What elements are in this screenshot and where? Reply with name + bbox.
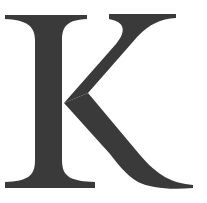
letter-canvas: K	[0, 0, 207, 203]
arm	[64, 14, 176, 103]
serif-letter-k-glyph	[0, 0, 207, 203]
leg	[64, 93, 193, 189]
